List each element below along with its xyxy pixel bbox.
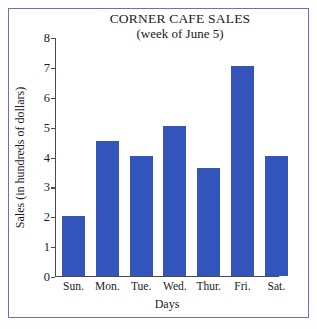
y-tick-mark bbox=[51, 217, 55, 218]
bar-mon[interactable] bbox=[96, 141, 119, 275]
bar-wed[interactable] bbox=[163, 126, 186, 275]
bar-fri[interactable] bbox=[231, 66, 254, 275]
bar-tue[interactable] bbox=[130, 156, 153, 276]
x-tick-label: Thur. bbox=[196, 281, 221, 293]
bar-sun[interactable] bbox=[62, 216, 85, 276]
y-tick-mark bbox=[51, 187, 55, 188]
bar-thur[interactable] bbox=[197, 168, 220, 276]
plot-area: 876543210 Sun.Mon.Tue.Wed.Thur.Fri.Sat. bbox=[55, 38, 295, 277]
y-tick-mark bbox=[51, 158, 55, 159]
y-tick-mark bbox=[51, 98, 55, 99]
x-tick-label: Sat. bbox=[268, 281, 286, 293]
y-tick-label: 2 bbox=[44, 211, 50, 224]
x-tick-label: Sun. bbox=[63, 281, 84, 293]
y-tick-mark bbox=[51, 128, 55, 129]
x-tick-label: Fri. bbox=[234, 281, 250, 293]
y-tick-label: 4 bbox=[44, 151, 50, 164]
y-tick-label: 6 bbox=[44, 92, 50, 105]
bar-sat[interactable] bbox=[265, 156, 288, 276]
x-tick-label: Wed. bbox=[163, 281, 187, 293]
y-tick-label: 3 bbox=[44, 181, 50, 194]
chart-title-block: CORNER CAFE SALES (week of June 5) bbox=[55, 11, 305, 41]
x-axis-line bbox=[55, 276, 279, 277]
y-tick-label: 8 bbox=[44, 32, 50, 45]
y-axis-title-label: Sales (in hundreds of dollars) bbox=[14, 87, 29, 228]
x-axis-title: Days bbox=[55, 297, 279, 312]
x-tick-label: Mon. bbox=[95, 281, 120, 293]
y-tick-label: 5 bbox=[44, 121, 50, 134]
y-tick-mark bbox=[51, 38, 55, 39]
y-axis-line bbox=[55, 38, 56, 277]
y-tick-label: 0 bbox=[44, 271, 50, 284]
y-tick-label: 7 bbox=[44, 62, 50, 75]
chart-figure: CORNER CAFE SALES (week of June 5) 87654… bbox=[0, 0, 317, 329]
y-tick-mark bbox=[51, 277, 55, 278]
y-axis-title: Sales (in hundreds of dollars) bbox=[12, 38, 30, 277]
y-tick-mark bbox=[51, 68, 55, 69]
x-tick-label: Tue. bbox=[131, 281, 151, 293]
y-tick-mark bbox=[51, 247, 55, 248]
page-title: CORNER CAFE SALES bbox=[55, 11, 305, 27]
y-tick-label: 1 bbox=[44, 241, 50, 254]
